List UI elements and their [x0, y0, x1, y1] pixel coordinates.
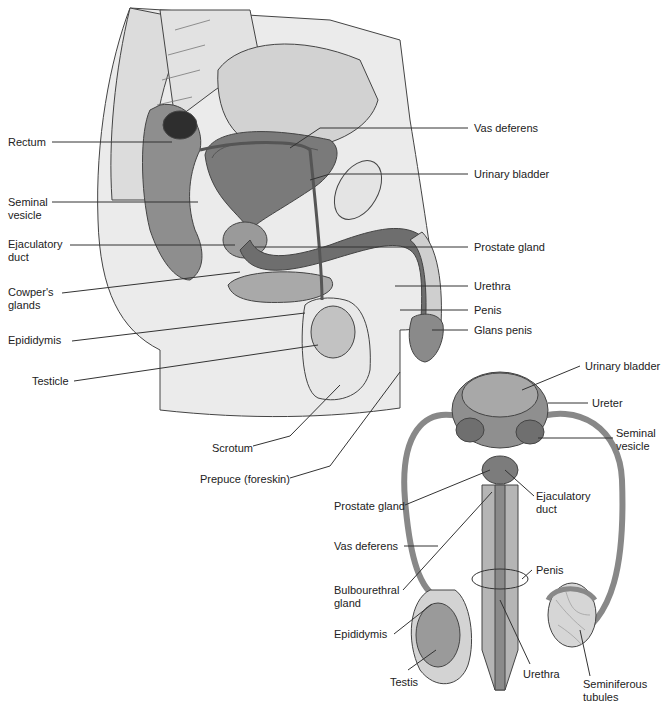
- label-ejaculatory-duct-frontal: Ejaculatory duct: [536, 490, 590, 516]
- label-urinary-bladder-frontal: Urinary bladder: [585, 360, 660, 373]
- label-penis-frontal: Penis: [536, 564, 564, 577]
- label-vas-deferens: Vas deferens: [474, 122, 538, 135]
- label-cowpers-glands: Cowper's glands: [8, 286, 54, 312]
- label-epididymis-frontal: Epididymis: [334, 628, 387, 641]
- label-testicle: Testicle: [32, 375, 69, 388]
- label-seminal-vesicle-frontal: Seminal vesicle: [616, 427, 656, 453]
- label-ureter: Ureter: [592, 397, 623, 410]
- label-bulbourethral-gland: Bulbourethral gland: [334, 584, 399, 610]
- label-vas-deferens-frontal: Vas deferens: [334, 540, 398, 553]
- label-penis: Penis: [474, 304, 502, 317]
- label-scrotum: Scrotum: [212, 442, 253, 455]
- label-urethra-frontal: Urethra: [523, 668, 560, 681]
- label-seminal-vesicle: Seminal vesicle: [8, 196, 48, 222]
- label-ejaculatory-duct: Ejaculatory duct: [8, 238, 62, 264]
- label-seminiferous-tubules: Seminiferous tubules: [583, 678, 647, 704]
- frontal-section: [404, 372, 622, 690]
- label-rectum: Rectum: [8, 136, 46, 149]
- label-prostate-gland-frontal: Prostate gland: [334, 500, 405, 513]
- label-urinary-bladder: Urinary bladder: [474, 168, 549, 181]
- label-urethra: Urethra: [474, 280, 511, 293]
- label-epididymis: Epididymis: [8, 334, 61, 347]
- label-glans-penis: Glans penis: [474, 324, 532, 337]
- label-prepuce: Prepuce (foreskin): [200, 473, 290, 486]
- label-testis: Testis: [390, 676, 418, 689]
- label-prostate-gland: Prostate gland: [474, 241, 545, 254]
- sagittal-section: [98, 8, 444, 417]
